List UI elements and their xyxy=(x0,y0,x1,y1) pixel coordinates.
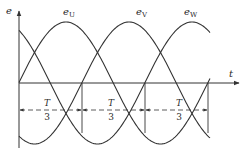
curve-label-eu: eU xyxy=(63,7,75,19)
interval-label-1: T 3 xyxy=(40,99,54,122)
three-phase-waveform-diagram: e t eU eV eW T 3 T 3 T 3 xyxy=(0,0,250,164)
t-axis-label: t xyxy=(229,69,233,79)
curve-label-ev: eV xyxy=(136,7,147,19)
curve-label-ew: eW xyxy=(184,7,197,19)
e-axis-label: e xyxy=(6,6,12,16)
waveform-plot xyxy=(0,0,250,164)
interval-label-3: T 3 xyxy=(172,99,186,122)
interval-label-2: T 3 xyxy=(104,99,118,122)
